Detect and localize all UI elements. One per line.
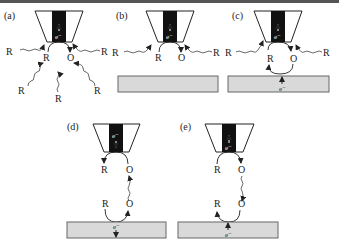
panel-d: (d) e⁻ R O R O e⁻	[67, 121, 166, 238]
diffusion-path	[296, 45, 322, 53]
species-r: R	[43, 52, 50, 63]
diffusing-r: R	[323, 47, 330, 58]
diffusing-r: R	[55, 93, 62, 104]
diffusing-r: R	[6, 46, 13, 57]
electron-label: e⁻	[225, 144, 232, 152]
diffusing-r: R	[112, 47, 119, 58]
species-r: R	[101, 164, 108, 175]
diffusion-path	[57, 72, 59, 92]
redox-arc-top	[268, 42, 291, 51]
secm-diagram: (a) e⁻ R O R R R R R (b) e⁻ R O R R (c)	[0, 0, 339, 246]
panel-label: (d)	[67, 121, 79, 133]
diffusion-path	[20, 45, 44, 51]
panel-e: (e) e⁻ R O R O e⁻	[178, 121, 278, 239]
diffusing-r: R	[94, 85, 101, 96]
species-o: O	[178, 52, 185, 63]
diffusion-path	[124, 45, 151, 53]
species-o: O	[238, 198, 245, 209]
species-r: R	[102, 198, 109, 209]
diffusion-path	[73, 44, 100, 52]
species-o: O	[67, 52, 74, 63]
electron-label: e⁻	[55, 33, 62, 41]
panel-label: (b)	[116, 10, 128, 22]
species-o: O	[238, 164, 245, 175]
panel-label: (e)	[180, 121, 191, 133]
panel-label: (c)	[232, 10, 243, 22]
diffusing-r: R	[18, 85, 25, 96]
species-o: O	[290, 53, 297, 64]
diffusing-r: R	[101, 46, 108, 57]
redox-arc-bottom	[269, 64, 293, 74]
diffusion-path	[74, 63, 95, 86]
panel-c: (c) e⁻ R O R R e⁻	[225, 10, 330, 93]
electron-label: e⁻	[274, 33, 281, 41]
diffusion-path	[185, 45, 212, 53]
redox-arc-tip	[217, 152, 241, 164]
species-r: R	[214, 164, 221, 175]
redox-arc	[159, 42, 181, 52]
substrate-electron-label: e⁻	[225, 231, 232, 239]
species-r: R	[214, 198, 221, 209]
species-o: O	[126, 164, 133, 175]
substrate-electron-label: e⁻	[113, 223, 120, 231]
diffusing-r: R	[225, 47, 232, 58]
species-r: R	[267, 53, 274, 64]
redox-arc-tip	[104, 152, 128, 164]
substrate-electron-label: e⁻	[279, 85, 286, 93]
panel-a: (a) e⁻ R O R R R R R	[4, 10, 108, 104]
panel-label: (a)	[4, 10, 15, 22]
redox-arc-substrate	[105, 209, 128, 222]
electron-label: e⁻	[112, 132, 119, 140]
redox-arc-substrate	[217, 210, 240, 222]
diffusing-r: R	[213, 47, 220, 58]
species-o: O	[126, 198, 133, 209]
substrate	[118, 76, 218, 92]
diffusion-path	[28, 63, 43, 86]
panel-b: (b) e⁻ R O R R	[112, 10, 220, 92]
redox-arc	[48, 42, 70, 52]
diffusion-path	[236, 41, 263, 53]
electron-label: e⁻	[166, 33, 173, 41]
species-r: R	[155, 52, 162, 63]
